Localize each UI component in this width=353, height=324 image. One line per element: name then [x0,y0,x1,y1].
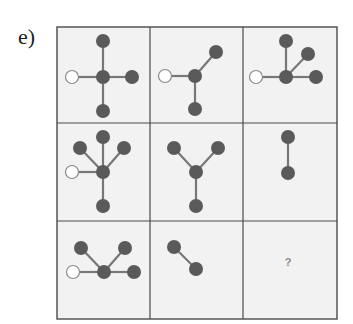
grid-cell-r0-c0 [57,27,150,123]
filled-node [188,102,202,116]
filled-node [309,70,323,84]
hub-node [96,70,110,84]
puzzle-grid: ? [0,0,353,324]
filled-node [209,45,223,59]
filled-node [96,199,110,213]
hub-node [188,69,202,83]
open-node [159,70,172,83]
filled-node [96,130,110,144]
filled-node [167,141,181,155]
filled-node [125,70,139,84]
grid-cell-r2-c0 [57,221,150,319]
open-node [66,166,79,179]
grid-cell-r0-c2 [243,27,337,123]
filled-node [189,262,203,276]
filled-node [73,141,87,155]
filled-node [127,265,141,279]
open-node [250,71,263,84]
filled-node [281,130,295,144]
filled-node [167,240,181,254]
filled-node [189,199,203,213]
hub-node [97,265,111,279]
filled-node [281,166,295,180]
hub-node [279,70,293,84]
filled-node [96,34,110,48]
grid-cell-r2-c1 [150,221,243,319]
grid-cell-r1-c2 [243,123,337,221]
grid-cell-r0-c1 [150,27,243,123]
filled-node [211,141,225,155]
filled-node [96,104,110,118]
filled-node [74,241,88,255]
open-node [66,71,79,84]
grid-cell-r2-c2: ? [243,221,337,319]
filled-node [301,47,315,61]
missing-cell-question-mark: ? [285,256,292,268]
filled-node [117,141,131,155]
hub-node [189,165,203,179]
filled-node [279,34,293,48]
grid-cell-r1-c1 [150,123,243,221]
hub-node [96,165,110,179]
filled-node [118,241,132,255]
open-node [67,266,80,279]
grid-cell-r1-c0 [57,123,150,221]
